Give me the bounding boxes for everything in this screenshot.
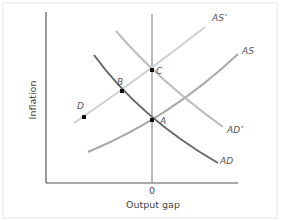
as-curve: [88, 54, 238, 152]
diagram-frame: [3, 3, 277, 218]
y-axis-label: Inflation: [27, 81, 38, 120]
point-c-label: C: [156, 66, 163, 76]
ad-as-diagram: D B C A AS’ AS AD’ AD 0 Output gap Infla…: [0, 0, 282, 220]
point-a-marker: [150, 118, 154, 122]
point-b-marker: [120, 89, 124, 93]
point-a-label: A: [159, 116, 166, 126]
x-axis-label: Output gap: [126, 199, 180, 210]
ad-label: AD: [219, 156, 233, 166]
ad-prime-label: AD’: [226, 125, 243, 135]
point-d-marker: [82, 115, 86, 119]
point-d-label: D: [77, 101, 84, 111]
point-b-label: B: [117, 77, 123, 87]
as-prime-curve: [74, 27, 205, 123]
point-c-marker: [150, 68, 154, 72]
x-tick-zero: 0: [149, 185, 155, 196]
ad-prime-curve: [116, 31, 223, 127]
as-prime-label: AS’: [211, 13, 227, 23]
as-label: AS: [241, 46, 254, 56]
